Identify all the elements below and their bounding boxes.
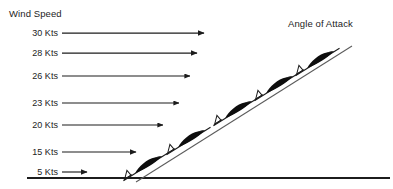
angle-of-attack-line — [136, 46, 352, 182]
wind-speed-label-28kts: 28 Kts — [32, 48, 58, 58]
wind-speed-angle-of-attack-diagram: Wind Speed Angle of Attack 30 Kts 28 Kts… — [0, 0, 393, 189]
diagram-canvas: Wind Speed Angle of Attack 30 Kts 28 Kts… — [0, 0, 393, 189]
wind-speed-label-20kts: 20 Kts — [32, 120, 58, 130]
aircraft-silhouette-4 — [251, 67, 300, 102]
wind-speed-label-23kts: 23 Kts — [32, 98, 58, 108]
wind-speed-label-5kts: 5 Kts — [37, 167, 58, 177]
aircraft-group — [120, 42, 341, 182]
aircraft-silhouette-5 — [292, 42, 341, 77]
wind-speed-title: Wind Speed — [9, 8, 62, 19]
wind-speed-label-15kts: 15 Kts — [32, 147, 58, 157]
angle-of-attack-title: Angle of Attack — [288, 18, 353, 29]
wind-speed-label-30kts: 30 Kts — [32, 28, 58, 38]
wind-arrow-group — [62, 33, 204, 172]
wind-speed-label-26kts: 26 Kts — [32, 71, 58, 81]
